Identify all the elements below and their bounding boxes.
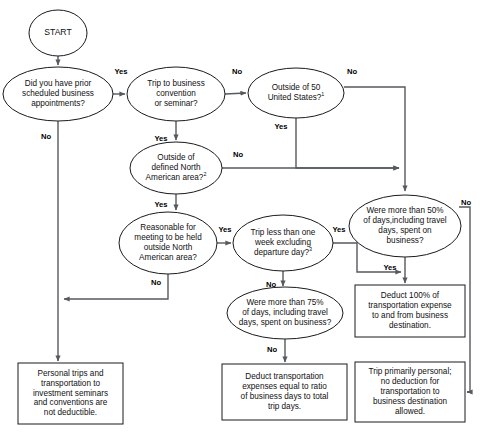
edge-label-prior_no: No bbox=[41, 132, 51, 141]
node-label-start: START bbox=[44, 27, 72, 37]
edge-label-reasonable_no: No bbox=[151, 278, 161, 287]
node-prior_appointments: Did you have priorscheduled businessappo… bbox=[3, 67, 113, 121]
node-trip_primarily_personal_box: Trip primarily personal;no deduction for… bbox=[355, 362, 465, 422]
edge-label-na_area_no: No bbox=[233, 150, 243, 159]
edge-label-outside50_no: No bbox=[347, 67, 357, 76]
edge-label-fifty_yes: Yes bbox=[383, 263, 396, 272]
edge-label-convention_no: No bbox=[232, 67, 242, 76]
node-personal_trips_box: Personal trips andtransportation toinves… bbox=[18, 363, 123, 424]
node-outside_50_states: Outside of 50United States?1 bbox=[248, 68, 344, 118]
node-more_than_50_percent: Were more than 50%of days,including trav… bbox=[349, 195, 461, 257]
node-label-trip_less_than_one_week: Trip less than oneweek excludingdepartur… bbox=[251, 228, 316, 257]
edge-label-fifty_no: No bbox=[461, 198, 471, 207]
node-deduct_ratio_box: Deduct transportationexpenses equal to r… bbox=[222, 364, 347, 420]
edge-label-reasonable_yes: Yes bbox=[218, 225, 231, 234]
edge-outside50-yes bbox=[296, 118, 399, 168]
node-trip_less_than_one_week: Trip less than oneweek excludingdepartur… bbox=[233, 215, 333, 271]
edge-label-prior_yes: Yes bbox=[114, 67, 127, 76]
node-start: START bbox=[29, 10, 87, 56]
node-deduct_100_box: Deduct 100% oftransportation expenseto a… bbox=[355, 285, 465, 337]
edge-label-week_no: No bbox=[266, 280, 276, 289]
edge-label-seventyfive_no: No bbox=[267, 345, 277, 354]
node-label-personal_trips_box: Personal trips andtransportation toinves… bbox=[33, 369, 108, 417]
edge-outside50-no bbox=[344, 87, 405, 191]
edge-convention-no bbox=[225, 93, 246, 94]
edge-label-na_area_yes: Yes bbox=[154, 200, 167, 209]
edge-label-convention_yes: Yes bbox=[154, 134, 167, 143]
node-convention_seminar: Trip to businessconventionor seminar? bbox=[127, 67, 225, 121]
node-outside_north_american_area: Outside ofdefined NorthAmerican area?2 bbox=[130, 142, 222, 194]
node-more_than_75_percent: Were more than 75%of days, including tra… bbox=[227, 287, 343, 339]
edge-label-week_yes: Yes bbox=[332, 225, 345, 234]
node-label-reasonable_meeting: Reasonable formeeting to be heldoutside … bbox=[134, 223, 202, 261]
edge-label-outside50_yes: Yes bbox=[274, 122, 287, 131]
node-label-prior_appointments: Did you have priorscheduled businessappo… bbox=[22, 79, 94, 108]
node-label-more_than_75_percent: Were more than 75%of days, including tra… bbox=[239, 298, 332, 327]
node-reasonable_meeting: Reasonable formeeting to be heldoutside … bbox=[119, 212, 217, 274]
node-label-outside_50_states: Outside of 50United States?1 bbox=[268, 83, 325, 102]
flowchart-canvas: STARTDid you have priorscheduled busines… bbox=[0, 0, 484, 436]
flowchart-svg: STARTDid you have priorscheduled busines… bbox=[0, 0, 484, 436]
